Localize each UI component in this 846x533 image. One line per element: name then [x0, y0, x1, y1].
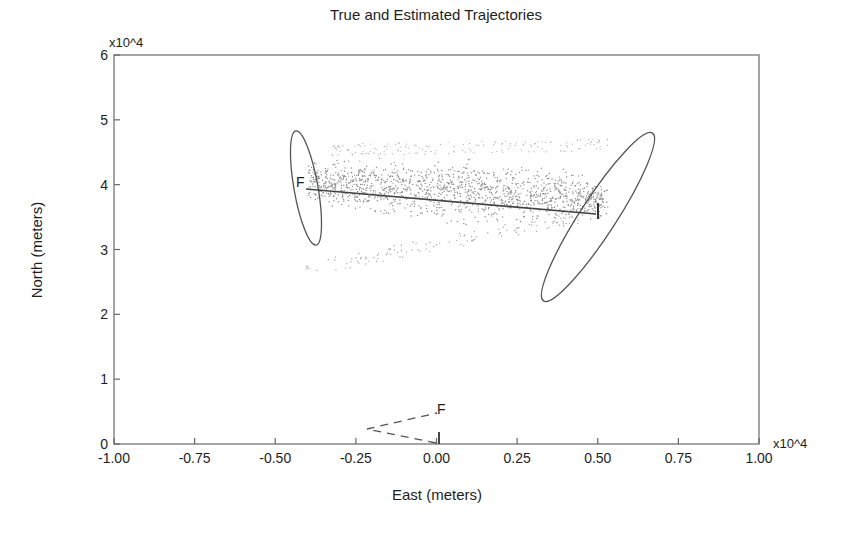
particle: [460, 181, 461, 182]
particle: [587, 182, 588, 183]
particle: [426, 174, 427, 175]
particle: [492, 152, 493, 153]
particle: [344, 175, 345, 176]
particle: [441, 187, 442, 188]
particle: [591, 197, 592, 198]
particle: [599, 140, 600, 141]
particle: [359, 180, 360, 181]
particle: [607, 190, 608, 191]
particle: [551, 198, 552, 199]
particle: [358, 173, 359, 174]
particle: [510, 193, 511, 194]
particle: [403, 168, 404, 169]
particle: [451, 181, 452, 182]
particle: [389, 188, 390, 189]
particle: [494, 203, 495, 204]
particle: [318, 176, 319, 177]
particle: [475, 174, 476, 175]
particle: [533, 185, 534, 186]
particle: [523, 181, 524, 182]
particle: [422, 190, 423, 191]
particle: [373, 169, 374, 170]
particle: [548, 204, 549, 205]
particle: [311, 167, 312, 168]
particle: [454, 198, 455, 199]
particle: [446, 174, 447, 175]
particle: [579, 199, 580, 200]
y-axis-label: North (meters): [28, 202, 45, 299]
particle: [406, 251, 407, 252]
particle: [326, 188, 327, 189]
particle: [312, 171, 313, 172]
particle: [395, 165, 396, 166]
particle: [578, 175, 579, 176]
particle: [389, 203, 390, 204]
particle: [408, 186, 409, 187]
particle: [412, 184, 413, 185]
particle: [410, 181, 411, 182]
particle: [334, 187, 335, 188]
particle: [503, 185, 504, 186]
particle: [386, 191, 387, 192]
particle: [407, 204, 408, 205]
particle: [579, 148, 580, 149]
particle: [569, 217, 570, 218]
particle: [572, 216, 573, 217]
particle: [594, 208, 595, 209]
particle: [563, 225, 564, 226]
particle: [497, 220, 498, 221]
particle: [503, 193, 504, 194]
particle: [394, 168, 395, 169]
particle: [444, 191, 445, 192]
particle: [307, 266, 308, 267]
particle: [506, 178, 507, 179]
particle: [314, 162, 315, 163]
particle: [596, 197, 597, 198]
particle: [355, 178, 356, 179]
x-tick-label: 1.00: [745, 450, 772, 466]
particle: [365, 169, 366, 170]
particle: [357, 186, 358, 187]
particle: [439, 188, 440, 189]
particle: [559, 179, 560, 180]
particle: [318, 182, 319, 183]
particle: [333, 179, 334, 180]
particle: [317, 172, 318, 173]
particle: [398, 176, 399, 177]
particle: [478, 183, 479, 184]
particle: [493, 197, 494, 198]
particle: [552, 221, 553, 222]
particle: [554, 207, 555, 208]
particle: [358, 174, 359, 175]
particle: [377, 179, 378, 180]
particle: [326, 174, 327, 175]
particle: [542, 198, 543, 199]
particle: [508, 148, 509, 149]
particle: [592, 208, 593, 209]
particle: [358, 170, 359, 171]
particle: [583, 191, 584, 192]
particle: [476, 145, 477, 146]
particle: [309, 192, 310, 193]
particle: [595, 192, 596, 193]
particle: [587, 197, 588, 198]
particle: [344, 161, 345, 162]
particle: [460, 187, 461, 188]
particle: [491, 215, 492, 216]
particle: [405, 146, 406, 147]
particle: [566, 190, 567, 191]
particle: [434, 202, 435, 203]
particle: [404, 154, 405, 155]
particle: [604, 207, 605, 208]
particle: [492, 187, 493, 188]
particle: [402, 163, 403, 164]
particle: [494, 197, 495, 198]
particle-cloud: [306, 139, 609, 271]
particle: [370, 190, 371, 191]
particle: [576, 210, 577, 211]
particle: [460, 235, 461, 236]
particle: [510, 205, 511, 206]
particle: [391, 163, 392, 164]
particle: [532, 221, 533, 222]
particle: [507, 169, 508, 170]
